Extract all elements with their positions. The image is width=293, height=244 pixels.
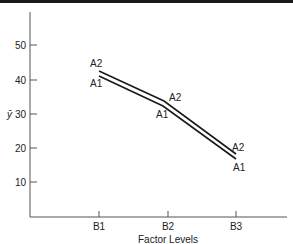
y-ticks <box>30 45 37 182</box>
xtick-b3: B3 <box>230 221 243 232</box>
ytick-40: 40 <box>15 75 27 86</box>
interaction-plot: 50 40 30 20 10 ȳ B1 B2 B3 Factor Levels … <box>0 0 293 244</box>
xtick-b2: B2 <box>162 221 175 232</box>
x-axis-label: Factor Levels <box>138 234 198 244</box>
ytick-30: 30 <box>15 109 27 120</box>
label-b2-a2: A2 <box>169 92 182 103</box>
x-ticks <box>99 211 236 217</box>
label-b3-a1: A1 <box>233 162 246 173</box>
label-b3-a2: A2 <box>232 142 245 153</box>
label-b2-a1: A1 <box>156 109 169 120</box>
ytick-10: 10 <box>15 177 27 188</box>
label-b1-a2: A2 <box>90 58 103 69</box>
ytick-20: 20 <box>15 143 27 154</box>
ytick-50: 50 <box>15 40 27 51</box>
label-b1-a1: A1 <box>90 78 103 89</box>
y-axis-label: ȳ <box>6 109 13 120</box>
xtick-b1: B1 <box>93 221 106 232</box>
